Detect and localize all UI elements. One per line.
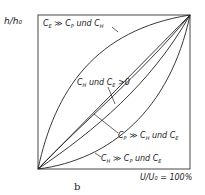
label-near-diagonal: CP ≫ CH und CE: [118, 131, 179, 141]
label-upper: CE ≫ CP und CH: [43, 19, 104, 29]
panel-label: b: [74, 181, 80, 192]
y-axis-label: h/h₀: [4, 16, 22, 26]
x-axis-label: U/U₀ = 100%: [140, 173, 192, 182]
diagram: h/h₀ CE ≫ CP und CH CH und CE >0 CP ≫ CH…: [0, 0, 205, 195]
curve-diagonal: [38, 15, 190, 169]
label-middle: CH und CE >0: [77, 78, 130, 88]
label-lower: CH ≫ CP und CE: [101, 154, 162, 164]
leader-upper: [112, 27, 118, 32]
